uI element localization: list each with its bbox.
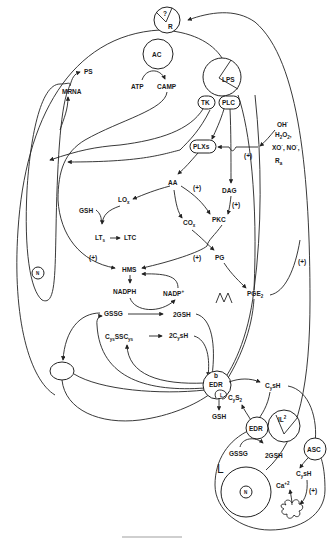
aa-lox-arrow	[133, 186, 170, 199]
edr-b-label: EDR	[209, 381, 223, 388]
camp-label: CAMP	[157, 83, 177, 90]
cox-pg-arrow	[192, 230, 214, 250]
svg-text:CysH: CysH	[296, 470, 312, 479]
svg-text:CysSSCys: CysSSCys	[105, 333, 134, 342]
mrna-ps-arrow	[70, 72, 80, 86]
plus-pg: (+)	[193, 254, 201, 262]
aa-label: AA	[168, 179, 178, 186]
plus-ca: (+)	[309, 487, 317, 495]
svg-text:H2O2,: H2O2,	[275, 131, 292, 140]
cropped-caption	[122, 536, 182, 538]
mrna-label: MRNA	[62, 88, 82, 95]
svg-text:2CysH: 2CysH	[169, 332, 188, 341]
gssg-vesicle-arrow	[63, 313, 100, 360]
pg-pge2-arrow	[224, 263, 246, 288]
nucleus-macrophage-label: N	[36, 271, 39, 276]
pg-label: PG	[215, 254, 224, 261]
edr-cysh-arrow	[229, 379, 260, 382]
svg-text:LOx: LOx	[118, 196, 130, 205]
ac-label: AC	[152, 51, 162, 58]
nadph-label: NADPH	[113, 288, 136, 295]
tk-arrow	[50, 109, 203, 160]
lts-label: LT	[95, 234, 102, 241]
plc-plxs-arrow	[212, 109, 224, 139]
asc-cysh-arrow	[300, 458, 308, 468]
lps-long-line	[238, 95, 255, 290]
nadp-label: NADP	[163, 290, 182, 297]
svg-text:PGE2: PGE2	[247, 290, 264, 299]
ltc-label: LTC	[124, 234, 136, 241]
plus-dag-pkc: (+)	[232, 201, 240, 209]
svg-text:CysH: CysH	[265, 382, 281, 391]
plxs-label: PLXs	[193, 143, 210, 150]
gssg-label: GSSG	[104, 310, 123, 317]
svg-text:OH·: OH·	[277, 120, 288, 128]
ps-label: PS	[84, 68, 93, 75]
svg-text:Ra: Ra	[275, 157, 283, 166]
gssg-lymph-label: GSSG	[229, 450, 248, 457]
hms-label: HMS	[122, 266, 137, 273]
lox-label: LO	[118, 196, 127, 203]
lymphocyte-label: L	[217, 462, 224, 476]
receptor-node	[154, 7, 180, 33]
cysh-edr-arrow	[194, 336, 209, 376]
lymph-gssg-arrow	[240, 439, 263, 447]
svg-text:XO·, NO·,: XO·, NO·,	[272, 143, 300, 152]
plus-right: (+)	[298, 258, 306, 266]
pkc-label: PKC	[212, 216, 226, 223]
edr-b-inner-label: L	[220, 393, 223, 398]
nadp-hms-arrow	[142, 274, 178, 288]
pge2-right-line	[270, 240, 300, 295]
gsh-upper-label: GSH	[79, 207, 93, 214]
macrophage-vesicle	[50, 362, 74, 380]
plc-dag-arrow	[230, 109, 231, 183]
atp-camp-arrow	[142, 71, 165, 80]
edr-gssg-arrow	[97, 316, 205, 389]
edr-cysscys-arrow	[127, 345, 205, 383]
atp-label: ATP	[131, 83, 144, 90]
svg-text:NADP+: NADP+	[163, 289, 184, 297]
dag-label: DAG	[222, 187, 236, 194]
dag-pkc-arrow	[228, 196, 231, 214]
plxs-aa-arrow	[178, 153, 198, 174]
gsh2-lymph-label: 2GSH	[265, 452, 283, 459]
pathway-diagram: ? R AC ATP CAMP LPS TK PLC PS MRNA PLXs …	[0, 0, 335, 540]
svg-text:CyS2: CyS2	[228, 394, 243, 403]
cox-label: CO	[183, 219, 193, 226]
aa-cox-arrow	[174, 190, 182, 218]
nadph-nadp-arrow	[130, 298, 175, 310]
svg-text:LTs: LTs	[95, 234, 105, 243]
pge2-edr-line	[223, 299, 254, 386]
nucleus-lymphocyte-label: N	[244, 490, 247, 495]
svg-text:Ca+2: Ca+2	[276, 481, 290, 489]
gsh-join	[96, 210, 101, 222]
receptor-r-label: R	[168, 23, 173, 30]
tk-label: TK	[201, 99, 210, 106]
vesicle-edr-line-2	[62, 380, 210, 421]
lps-label: LPS	[222, 76, 235, 83]
cysh-organelle-arrow	[300, 480, 307, 504]
pge2-label: PGE	[247, 290, 261, 297]
edr-lymphocyte-label: EDR	[249, 425, 263, 432]
asc-label: ASC	[307, 446, 321, 453]
gsh-lower-label: GSH	[212, 413, 226, 420]
nucleus-loop	[26, 83, 70, 301]
svg-text:COx: COx	[183, 219, 196, 228]
edr-b-top-label: b	[214, 372, 218, 379]
oxidant-plxs-arrow	[218, 147, 258, 151]
tk-arrow-2	[68, 110, 210, 162]
gsh2-label: 2GSH	[173, 311, 191, 318]
receptor-question-label: ?	[163, 10, 167, 17]
organelle-shape	[281, 500, 303, 519]
oxidants-label: OH· H2O2, XO·, NO·, Ra	[272, 120, 300, 166]
macrophage-m-glyph	[216, 293, 232, 303]
plc-label: PLC	[222, 99, 235, 106]
plus-aa-pkc: (+)	[193, 184, 201, 192]
lox-lts-arrow	[102, 206, 120, 224]
plus-hms-left: (+)	[89, 254, 97, 262]
